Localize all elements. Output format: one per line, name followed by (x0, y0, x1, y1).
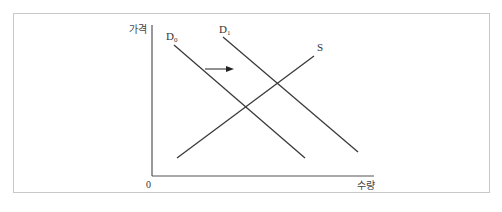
demand-curve-d0 (174, 45, 305, 158)
d0-label-main: D (166, 30, 174, 42)
d1-label: D1 (219, 24, 230, 37)
supply-demand-diagram (0, 0, 502, 212)
x-axis-label: 수량 (357, 181, 375, 191)
d1-label-main: D (219, 23, 227, 35)
supply-curve-s (177, 56, 314, 158)
shift-arrow-icon (205, 66, 234, 72)
d0-label: D0 (166, 31, 177, 44)
d1-label-sub: 1 (227, 29, 231, 37)
s-label: S (317, 42, 323, 53)
origin-label: 0 (146, 180, 151, 190)
demand-curve-d1 (223, 37, 358, 152)
y-axis-label: 가격 (129, 25, 147, 35)
d0-label-sub: 0 (174, 36, 178, 44)
